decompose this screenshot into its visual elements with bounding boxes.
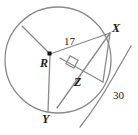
geometry-figure: X Y Z R 17 30	[0, 0, 138, 135]
radius-left-segment	[22, 26, 50, 54]
measure-label-radius: 17	[64, 36, 75, 47]
radius-RX	[50, 33, 110, 54]
point-label-R: R	[40, 57, 48, 69]
external-segment-line	[80, 46, 131, 127]
center-point-dot	[48, 52, 52, 56]
point-label-Y: Y	[42, 113, 49, 125]
point-label-Z: Z	[74, 76, 81, 88]
circle-outline	[5, 7, 111, 113]
segment-RY	[48, 54, 50, 112]
measure-label-external: 30	[113, 90, 124, 101]
point-label-X: X	[112, 22, 120, 34]
